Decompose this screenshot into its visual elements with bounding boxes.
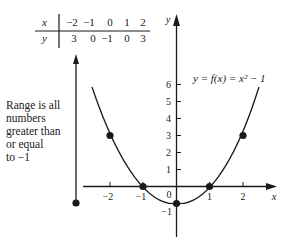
y-tick-label: 2: [166, 147, 171, 158]
y-tick-label: 4: [166, 113, 171, 124]
point-neg1-0: [139, 183, 146, 190]
table-y-cell: 3: [140, 32, 146, 44]
range-note-line: to −1: [6, 151, 76, 164]
point-neg2-3: [106, 132, 113, 139]
table-x-label: x: [41, 16, 47, 28]
point-0-neg1: [173, 200, 180, 207]
range-note-line: or equal: [6, 138, 76, 151]
y-tick-label: 3: [166, 130, 171, 141]
table-y-label: y: [41, 32, 47, 44]
point-1-0: [206, 183, 213, 190]
y-tick-label: 5: [166, 96, 171, 107]
table-y-cell: 0: [90, 32, 96, 44]
table-y-cell: 3: [71, 32, 77, 44]
x-tick-label: 1: [207, 191, 212, 202]
x-axis-label: x: [271, 191, 277, 202]
origin-label: 0: [167, 189, 172, 200]
range-note: Range is all numbers greater than or equ…: [6, 99, 76, 164]
x-tick-label: −2: [103, 191, 114, 202]
value-table: x y −2 −1 0 1 2 3 0 −1 0 3: [35, 14, 150, 48]
equation-label: y = f(x) = x² − 1: [192, 72, 266, 85]
point-2-3: [239, 132, 246, 139]
table-x-cell: 1: [124, 16, 130, 28]
table-y-cell: −1: [101, 32, 113, 44]
range-note-line: greater than: [6, 125, 76, 138]
x-axis-arrow-icon: [266, 183, 277, 190]
range-min-dot: [72, 199, 79, 206]
table-x-cell: −2: [66, 16, 78, 28]
range-note-line: Range is all: [6, 99, 76, 112]
range-note-line: numbers: [6, 112, 76, 125]
table-y-cell: 0: [124, 32, 130, 44]
table-x-cell: 0: [107, 16, 113, 28]
table-x-cell: −1: [83, 16, 95, 28]
y-tick-label: 6: [166, 79, 171, 90]
y-neg-tick-label: −1: [161, 206, 172, 217]
y-axis-arrow-icon: [173, 14, 180, 26]
x-tick-label: −1: [136, 191, 147, 202]
x-tick-label: 2: [241, 191, 246, 202]
y-tick-label: 1: [166, 164, 171, 175]
y-axis-label: y: [165, 14, 171, 25]
table-x-cell: 2: [140, 16, 146, 28]
